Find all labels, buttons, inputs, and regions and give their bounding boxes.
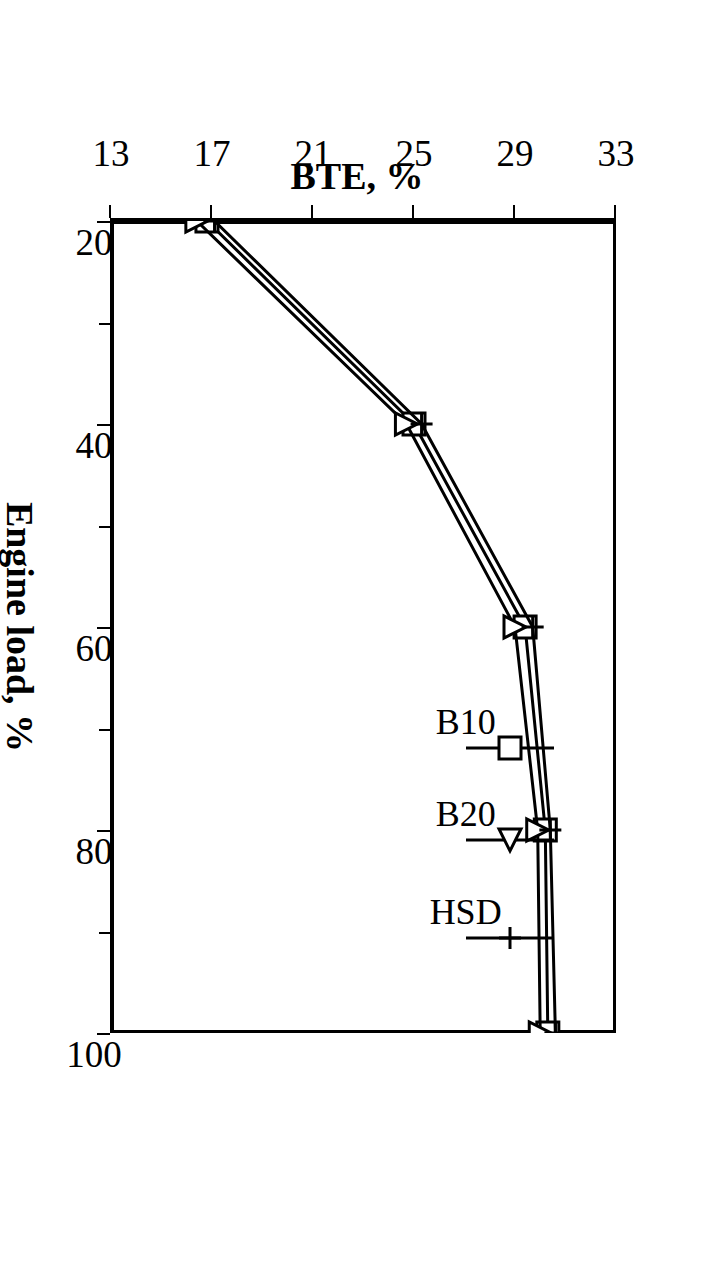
legend-label: B20 — [435, 795, 495, 832]
legend-item-B10: B10 — [447, 692, 582, 752]
y-tick — [513, 205, 515, 218]
y-tick — [311, 205, 313, 218]
y-tick — [109, 205, 111, 218]
y-axis-title: BTE, % — [197, 154, 517, 198]
data-point-marker-plus — [499, 927, 521, 949]
y-tick — [614, 205, 616, 218]
legend-label: HSD — [429, 893, 501, 930]
x-minor-tick — [99, 322, 110, 324]
y-tick — [210, 205, 212, 218]
legend-marker-triangle-icon — [516, 768, 556, 860]
figure-canvas: 20406080100 Engine load, % 131721252933 … — [0, 0, 727, 1261]
x-minor-tick — [99, 931, 110, 933]
x-tick-label: 80 — [75, 830, 112, 873]
x-tick-label: 60 — [75, 627, 112, 670]
legend-marker-plus-icon — [516, 866, 556, 958]
x-axis-title: Engine load, % — [0, 221, 42, 1033]
legend-item-B20: B20 — [447, 784, 582, 844]
y-tick — [412, 205, 414, 218]
legend-label: B10 — [435, 703, 495, 740]
data-point-marker-square — [499, 737, 521, 759]
y-tick-label: 33 — [597, 132, 634, 175]
legend: B10B20HSD — [447, 676, 582, 964]
x-minor-tick — [99, 728, 110, 730]
x-tick-label: 20 — [75, 221, 112, 264]
x-minor-tick — [99, 525, 110, 527]
x-tick-label: 100 — [66, 1033, 122, 1076]
legend-item-HSD: HSD — [447, 876, 582, 948]
y-axis-line — [110, 218, 616, 221]
legend-marker-square-icon — [516, 676, 556, 768]
y-tick-label: 13 — [92, 132, 129, 175]
x-tick-label: 40 — [75, 424, 112, 467]
rotated-chart-stage: 20406080100 Engine load, % 131721252933 … — [94, 116, 634, 1146]
